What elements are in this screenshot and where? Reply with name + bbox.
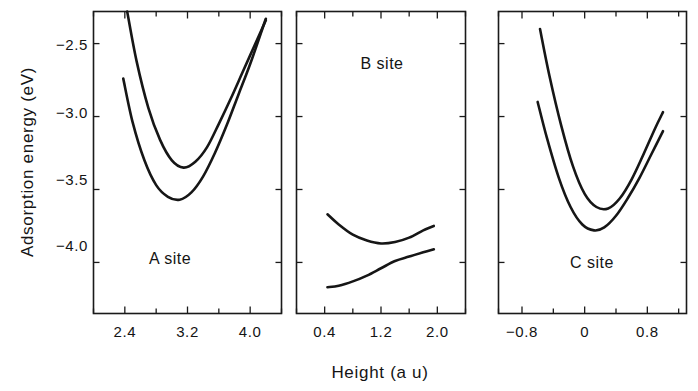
figure-canvas: Adsorption energy (eV) Height (a u) −2.5…	[0, 0, 698, 391]
x-tick-label: 1.2	[370, 323, 393, 340]
x-tick-label: 2.4	[114, 323, 137, 340]
x-tick-label: 3.2	[176, 323, 199, 340]
y-tick-label: −2.5	[56, 36, 88, 53]
y-axis-title: Adsorption energy (eV)	[18, 67, 37, 257]
panel-c-x-tick-labels: −0.800.8	[506, 323, 659, 340]
x-tick-label: 0	[580, 323, 589, 340]
y-tick-label: −4.0	[56, 237, 88, 254]
panel-a-x-tick-labels: 2.43.24.0	[114, 323, 262, 340]
x-tick-label: 2.0	[426, 323, 449, 340]
x-axis-title: Height (a u)	[331, 363, 428, 382]
x-tick-label: 0.8	[636, 323, 659, 340]
panel-b-x-tick-labels: 0.41.22.0	[313, 323, 448, 340]
x-tick-label: −0.8	[506, 323, 538, 340]
y-tick-label: −3.5	[56, 171, 88, 188]
x-tick-label: 0.4	[313, 323, 336, 340]
figure-root: Adsorption energy (eV) Height (a u) −2.5…	[0, 0, 698, 391]
panel-c-label: C site	[570, 254, 614, 271]
figure-background	[0, 0, 698, 391]
y-tick-label: −3.0	[56, 104, 88, 121]
x-tick-label: 4.0	[239, 323, 262, 340]
panel-a-label: A site	[149, 250, 191, 267]
panel-b-label: B site	[360, 55, 403, 72]
